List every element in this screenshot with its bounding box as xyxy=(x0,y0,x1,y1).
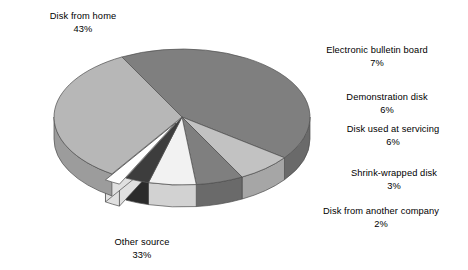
pie-side-wall xyxy=(148,183,196,207)
slice-label-value: 43% xyxy=(18,23,148,36)
slice-label-name: Shrink-wrapped disk xyxy=(322,167,466,180)
slice-label-name: Other source xyxy=(72,236,212,249)
slice-label-disk-used-at-servicing: Disk used at servicing 6% xyxy=(320,123,466,148)
slice-label-other-source: Other source 33% xyxy=(72,236,212,261)
slice-label-name: Disk from another company xyxy=(298,205,464,218)
slice-label-name: Disk from home xyxy=(18,10,148,23)
slice-label-name: Electronic bulletin board xyxy=(296,44,458,57)
pie-chart-figure: Disk from home 43%Electronic bulletin bo… xyxy=(0,0,468,270)
slice-label-value: 3% xyxy=(322,180,466,193)
slice-label-value: 2% xyxy=(298,218,464,231)
slice-label-demonstration-disk: Demonstration disk 6% xyxy=(316,91,458,116)
slice-label-name: Disk used at servicing xyxy=(320,123,466,136)
slice-label-value: 7% xyxy=(296,57,458,70)
slice-label-disk-from-another-company: Disk from another company 2% xyxy=(298,205,464,230)
slice-label-disk-from-home: Disk from home 43% xyxy=(18,10,148,35)
slice-label-name: Demonstration disk xyxy=(316,91,458,104)
slice-label-electronic-bulletin-board: Electronic bulletin board 7% xyxy=(296,44,458,69)
slice-label-value: 33% xyxy=(72,249,212,262)
pie-top-faces: Disk from home 43%Electronic bulletin bo… xyxy=(54,49,310,185)
slice-label-shrink-wrapped-disk: Shrink-wrapped disk 3% xyxy=(322,167,466,192)
slice-label-value: 6% xyxy=(320,136,466,149)
slice-label-value: 6% xyxy=(316,104,458,117)
